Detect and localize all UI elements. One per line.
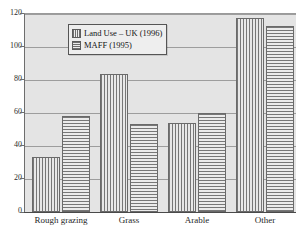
bar-rough-grazing-maff-1995[interactable] (62, 116, 90, 212)
legend-swatch-horizontal-stripe-icon (72, 41, 81, 50)
bar-arable-land-use-uk-1996[interactable] (168, 123, 196, 212)
y-axis-tick-0: 0 (2, 207, 22, 215)
x-axis-label-grass: Grass (94, 216, 164, 226)
y-tick-mark-120 (20, 13, 24, 14)
y-axis-tick-80: 80 (2, 75, 22, 83)
y-tick-mark-100 (20, 46, 24, 47)
y-axis-tick-40: 40 (2, 141, 22, 149)
y-tick-mark-20 (20, 178, 24, 179)
y-axis-tick-100: 100 (2, 42, 22, 50)
y-axis-tick-120: 120 (2, 9, 22, 17)
bar-rough-grazing-land-use-uk-1996[interactable] (32, 157, 60, 212)
bar-grass-land-use-uk-1996[interactable] (100, 74, 128, 212)
x-axis-labels: Rough grazing Grass Arable Other (24, 216, 296, 234)
x-axis-label-other: Other (230, 216, 300, 226)
y-tick-mark-80 (20, 79, 24, 80)
bar-other-maff-1995[interactable] (266, 26, 294, 212)
legend-entry-maff-1995[interactable]: MAFF (1995) (72, 39, 162, 51)
bar-group-arable (166, 13, 228, 212)
y-tick-mark-60 (20, 112, 24, 113)
y-axis-tick-60: 60 (2, 108, 22, 116)
legend-swatch-vertical-stripe-icon (72, 29, 81, 38)
legend-label-maff-1995: MAFF (1995) (84, 41, 132, 50)
bar-other-land-use-uk-1996[interactable] (236, 18, 264, 212)
x-axis-label-arable: Arable (162, 216, 232, 226)
y-tick-mark-0 (20, 212, 24, 213)
y-axis-tick-20: 20 (2, 174, 22, 182)
legend-label-land-use-uk-1996: Land Use – UK (1996) (84, 29, 162, 38)
y-tick-mark-40 (20, 145, 24, 146)
bar-grass-maff-1995[interactable] (130, 124, 158, 212)
bar-chart: 120 100 80 60 40 20 0 Rough grazing Gras… (0, 0, 304, 243)
x-axis-label-rough-grazing: Rough grazing (24, 216, 98, 226)
x-axis-line (24, 212, 296, 213)
legend: Land Use – UK (1996) MAFF (1995) (68, 24, 167, 55)
bar-arable-maff-1995[interactable] (198, 113, 226, 213)
bar-group-other (234, 13, 296, 212)
legend-entry-land-use-uk-1996[interactable]: Land Use – UK (1996) (72, 27, 162, 39)
